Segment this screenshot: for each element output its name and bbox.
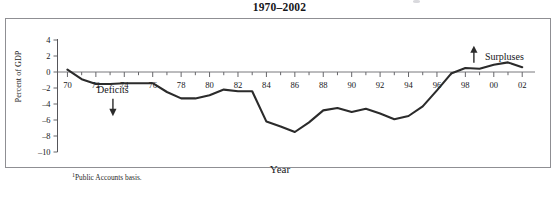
x-tick-label: 98	[461, 80, 470, 90]
x-tick-label: 88	[319, 80, 328, 90]
annotation-label-surpluses: Surpluses	[485, 51, 524, 62]
y-tick-label: –6	[41, 116, 50, 125]
x-tick-label: 86	[291, 80, 300, 90]
x-tick-label: 00	[489, 80, 498, 90]
figure-container: 1970–2002 Percent of GDP Year 1Public Ac…	[0, 0, 559, 211]
y-tick-label: –4	[41, 100, 51, 109]
y-tick-label: 4	[46, 36, 51, 45]
x-tick-label: 82	[234, 80, 243, 90]
chart-plot: 420–2–4–6–8–10 7072747678808284868890929…	[0, 0, 559, 211]
annotation-label-deficits: Deficits	[97, 84, 129, 95]
x-tick-label: 78	[177, 80, 186, 90]
annotation-arrow-head-surpluses	[470, 46, 477, 53]
x-tick-label: 02	[518, 80, 527, 90]
x-axis: 7072747678808284868890929496980002	[63, 72, 526, 90]
annotation-arrow-head-deficits	[109, 109, 116, 117]
y-tick-label: –10	[37, 148, 51, 157]
x-tick-label: 90	[347, 80, 356, 90]
x-tick-label: 92	[376, 80, 385, 90]
x-tick-label: 80	[205, 80, 214, 90]
y-tick-label: –2	[41, 84, 50, 93]
y-tick-label: 0	[46, 68, 50, 77]
x-tick-label: 70	[63, 80, 72, 90]
x-tick-label: 84	[262, 80, 271, 90]
y-tick-label: –8	[41, 132, 50, 141]
chart-annotations: DeficitsSurpluses	[97, 46, 524, 117]
y-tick-label: 2	[46, 52, 50, 61]
y-axis: 420–2–4–6–8–10	[37, 36, 58, 157]
x-tick-label: 94	[404, 80, 413, 90]
